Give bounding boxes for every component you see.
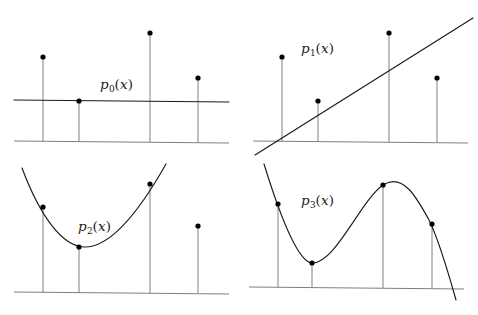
data-point (40, 54, 45, 59)
polynomial-label-p0: p0(x) (100, 78, 133, 92)
polynomial-label-p1: p1(x) (301, 42, 334, 56)
baseline-axis (14, 141, 229, 143)
polynomial-label-p3: p3(x) (301, 194, 334, 208)
data-point (386, 30, 391, 35)
data-point (434, 75, 439, 80)
data-point (309, 260, 314, 265)
data-points-p0 (40, 30, 200, 103)
baseline-axis (253, 141, 468, 143)
fit-curve-p0 (14, 100, 229, 102)
panel-p2: p2(x) (0, 158, 239, 315)
fit-curve-p3 (264, 164, 456, 300)
stems-p2 (43, 184, 198, 293)
panel-p0: p0(x) (0, 0, 239, 157)
data-point (429, 221, 434, 226)
data-point (195, 75, 200, 80)
data-point (315, 98, 320, 103)
polynomial-label-p2: p2(x) (78, 220, 111, 234)
data-points-p3 (275, 182, 434, 265)
data-point (147, 30, 152, 35)
data-point (76, 98, 81, 103)
data-point (380, 182, 385, 187)
data-point (195, 223, 200, 228)
panel-p3: p3(x) (239, 158, 478, 315)
fit-curve-p1 (255, 18, 473, 155)
data-point (279, 54, 284, 59)
panel-p1: p1(x) (239, 0, 478, 157)
baseline-axis (14, 292, 229, 294)
data-point (76, 244, 81, 249)
data-point (147, 181, 152, 186)
data-point (40, 204, 45, 209)
data-point (275, 201, 280, 206)
interpolation-figure: p0(x) p1(x) (0, 0, 478, 315)
